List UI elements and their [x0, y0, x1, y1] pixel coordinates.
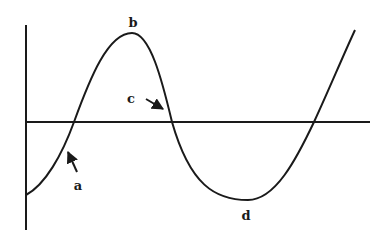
label-d: d — [241, 209, 250, 222]
label-b: b — [128, 16, 137, 29]
arrow-c — [146, 99, 163, 109]
wave-diagram — [0, 0, 386, 240]
arrow-a — [68, 152, 77, 172]
label-a: a — [74, 179, 82, 192]
label-c: c — [127, 92, 135, 105]
wave-curve — [26, 30, 355, 200]
